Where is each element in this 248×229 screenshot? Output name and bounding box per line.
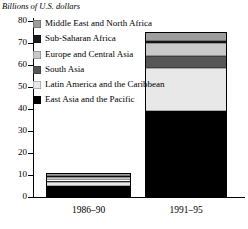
bar-segment-eap [145, 111, 227, 197]
bar-segment-ssa [46, 176, 131, 177]
y-axis-tick-label: 80 [1, 16, 27, 25]
legend-label: South Asia [45, 64, 84, 75]
y-axis-tick-labels: 01020304050607080 [0, 0, 27, 229]
bar-segment-lac [46, 182, 131, 186]
legend-swatch-lac [33, 81, 41, 89]
legend-swatch-eap [33, 96, 41, 104]
bar-segment-mena [46, 173, 131, 177]
legend-swatch-sa [33, 66, 41, 74]
y-axis-tick [28, 175, 33, 176]
legend-label: Middle East and North Africa [45, 18, 152, 29]
y-axis-tick-label: 30 [1, 126, 27, 135]
legend-label: East Asia and the Pacific [45, 94, 134, 105]
bar-segment-mena [145, 32, 227, 41]
y-axis-tick [28, 131, 33, 132]
y-axis-tick [28, 109, 33, 110]
x-axis-tick-label: 1986–90 [46, 205, 131, 215]
legend-label: Sub-Saharan Africa [45, 33, 116, 44]
y-axis-tick [28, 153, 33, 154]
bar-segment-eca [145, 43, 227, 56]
y-axis-tick-label: 60 [1, 60, 27, 69]
bar-segment-sa [46, 181, 131, 183]
y-axis-tick-label: 70 [1, 38, 27, 47]
bar-second [145, 0, 227, 229]
y-axis-tick [28, 197, 33, 198]
legend-label: Europe and Central Asia [45, 49, 133, 60]
bar-segment-eca [46, 177, 131, 180]
legend-swatch-mena [33, 20, 41, 28]
legend-label: Latin America and the Caribbean [45, 79, 164, 90]
stacked-bar-chart: Billions of U.S. dollars 010203040506070… [0, 0, 248, 229]
legend-swatch-ssa [33, 35, 41, 43]
y-axis-tick-label: 20 [1, 148, 27, 157]
legend-swatch-eca [33, 51, 41, 59]
bar-segment-sa [145, 56, 227, 68]
y-axis-tick-label: 0 [1, 192, 27, 201]
y-axis-line [33, 18, 34, 198]
y-axis-tick-label: 10 [1, 170, 27, 179]
y-axis-tick-label: 40 [1, 104, 27, 113]
bar-segment-eap [46, 186, 131, 197]
y-axis-tick-label: 50 [1, 82, 27, 91]
x-axis-tick-label: 1991–95 [145, 205, 227, 215]
bar-segment-ssa [145, 41, 227, 43]
